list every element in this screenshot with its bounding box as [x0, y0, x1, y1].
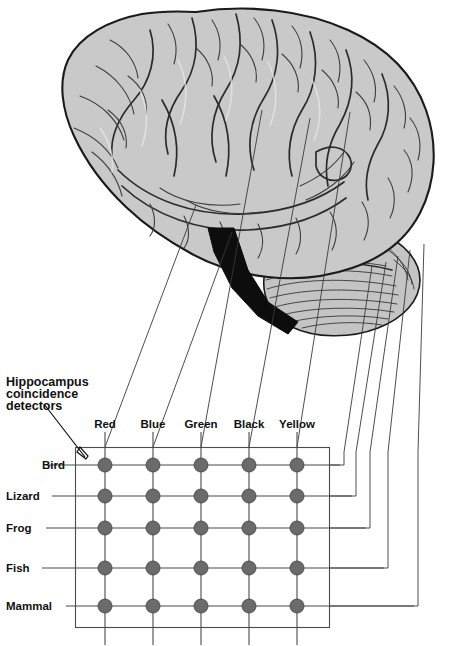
column-label-blue: Blue — [141, 418, 166, 430]
matrix-node[interactable] — [146, 489, 160, 503]
matrix-node[interactable] — [98, 458, 112, 472]
cerebral-cortex — [62, 9, 433, 279]
matrix-column-labels: Red Blue Green Black Yellow — [94, 418, 315, 430]
brain-matrix-diagram: Red Blue Green Black Yellow Bird Lizard … — [0, 0, 452, 646]
matrix-node[interactable] — [146, 521, 160, 535]
matrix-node[interactable] — [242, 599, 256, 613]
matrix-node[interactable] — [98, 599, 112, 613]
matrix-node[interactable] — [242, 561, 256, 575]
row-label-frog: Frog — [6, 522, 32, 534]
matrix-node[interactable] — [98, 489, 112, 503]
row-label-fish: Fish — [6, 562, 30, 574]
column-label-red: Red — [94, 418, 116, 430]
matrix-node[interactable] — [194, 521, 208, 535]
matrix-node[interactable] — [194, 458, 208, 472]
matrix-node[interactable] — [290, 458, 304, 472]
row-label-mammal: Mammal — [6, 600, 52, 612]
figure-root: Red Blue Green Black Yellow Bird Lizard … — [0, 0, 452, 646]
matrix-node[interactable] — [146, 561, 160, 575]
matrix-node[interactable] — [146, 458, 160, 472]
matrix-node[interactable] — [194, 561, 208, 575]
column-label-yellow: Yellow — [279, 418, 315, 430]
matrix-node[interactable] — [290, 599, 304, 613]
column-lead-red — [105, 205, 196, 447]
matrix-node[interactable] — [290, 489, 304, 503]
column-label-green: Green — [184, 418, 217, 430]
matrix-node[interactable] — [98, 521, 112, 535]
matrix-node[interactable] — [242, 521, 256, 535]
matrix-node[interactable] — [146, 599, 160, 613]
matrix-node[interactable] — [290, 521, 304, 535]
row-label-lizard: Lizard — [6, 490, 40, 502]
annotation-line-3: detectors — [6, 399, 62, 413]
matrix-node[interactable] — [290, 561, 304, 575]
matrix-node[interactable] — [98, 561, 112, 575]
column-label-black: Black — [234, 418, 265, 430]
matrix-node[interactable] — [194, 489, 208, 503]
matrix-node[interactable] — [242, 489, 256, 503]
matrix-node[interactable] — [242, 458, 256, 472]
matrix-node[interactable] — [194, 599, 208, 613]
hippocampus-annotation: Hippocampus coincidence detectors — [6, 375, 89, 459]
coincidence-matrix — [42, 432, 414, 645]
matrix-row-labels: Bird Lizard Frog Fish Mammal — [6, 459, 65, 612]
row-label-bird: Bird — [42, 459, 65, 471]
